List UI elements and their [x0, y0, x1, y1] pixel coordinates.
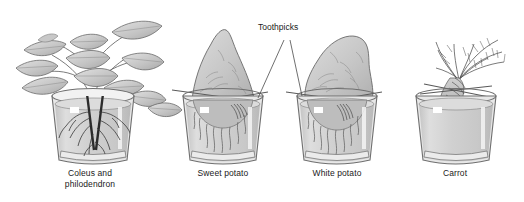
toothpicks-leader-lines [258, 40, 302, 98]
specimen-sweet-potato [172, 30, 268, 164]
jar-white-potato-side-highlight [362, 107, 366, 149]
propagation-diagram: Toothpicks Coleus and philodendron Sweet… [0, 0, 524, 202]
caption-sweet-potato: Sweet potato [163, 168, 283, 179]
caption-carrot: Carrot [400, 168, 510, 179]
specimen-coleus-philodendron [16, 21, 182, 164]
specimen-carrot [416, 38, 505, 164]
jar-coleus-highlight [70, 107, 79, 113]
caption-coleus-philodendron: Coleus and philodendron [15, 168, 165, 189]
caption-white-potato: White potato [277, 168, 397, 179]
carrot-foliage [436, 38, 505, 80]
jar-carrot-highlight [433, 107, 442, 113]
jar-sweet-potato-highlight [200, 107, 209, 113]
jar-carrot-side-highlight [481, 107, 485, 149]
jar-sweet-potato-side-highlight [248, 107, 252, 149]
white-potato-tuber [305, 36, 373, 104]
toothpicks-annotation-label: Toothpicks [258, 22, 298, 32]
jar-white-potato-highlight [314, 107, 323, 113]
specimen-white-potato [286, 36, 382, 164]
